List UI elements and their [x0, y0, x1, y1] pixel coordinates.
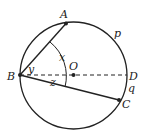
label-a: A	[59, 8, 68, 21]
point-c	[117, 98, 121, 102]
chord-bc	[20, 75, 119, 100]
label-x: x	[59, 51, 66, 64]
label-c: C	[122, 98, 131, 111]
circle-diagram: A p x O y B D z q C	[0, 0, 145, 138]
label-y: y	[27, 63, 35, 76]
point-a	[64, 22, 68, 26]
label-q: q	[128, 82, 135, 95]
label-p: p	[114, 27, 121, 40]
label-o: O	[69, 60, 78, 73]
point-o	[72, 73, 76, 77]
point-b	[18, 73, 22, 77]
label-z: z	[49, 76, 56, 89]
label-b: B	[6, 70, 15, 83]
